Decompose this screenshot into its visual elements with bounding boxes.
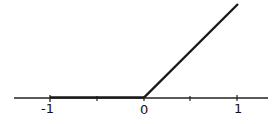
tick-label-neg-1: -1 [41, 102, 54, 115]
tick-label-1: 1 [234, 102, 242, 115]
relu-line [50, 4, 238, 98]
tick-label-0: 0 [140, 103, 148, 116]
